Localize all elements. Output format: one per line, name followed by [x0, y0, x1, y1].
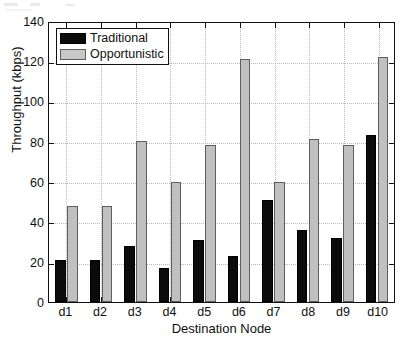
scan-artifact — [66, 4, 75, 6]
y-tick-40 — [49, 223, 54, 224]
bar-d1-traditional — [55, 260, 66, 302]
legend-swatch-traditional — [60, 33, 86, 44]
legend-label-traditional: Traditional — [90, 32, 148, 45]
y-tick-120-right — [389, 63, 394, 64]
y-tick-100-right — [389, 103, 394, 104]
bar-d5-opportunistic — [205, 145, 216, 302]
x-tick-d7-top — [275, 23, 276, 28]
bar-d1-opportunistic — [67, 206, 78, 302]
x-tick-d5-top — [205, 23, 206, 28]
legend-swatch-opportunistic — [60, 49, 86, 60]
y-tick-80-right — [389, 143, 394, 144]
legend-entry-traditional: Traditional — [60, 31, 164, 46]
y-tick-label-20: 20 — [0, 256, 44, 270]
x-tick-label-d10: d10 — [352, 305, 404, 319]
bar-d4-opportunistic — [171, 182, 182, 302]
bar-d10-traditional — [366, 135, 377, 302]
chart-figure: Throughput (kbps) Destination Node 0 20 … — [0, 0, 410, 339]
y-tick-120 — [49, 63, 54, 64]
bar-d3-traditional — [124, 246, 135, 302]
bar-d7-opportunistic — [274, 182, 285, 302]
y-tick-label-40: 40 — [0, 216, 44, 230]
scan-artifact — [30, 3, 40, 6]
legend-entry-opportunistic: Opportunistic — [60, 47, 164, 62]
bar-d9-opportunistic — [343, 145, 354, 302]
bar-d7-traditional — [262, 200, 273, 302]
y-tick-20 — [49, 264, 54, 265]
y-tick-label-100: 100 — [0, 95, 44, 109]
plot-area: Traditional Opportunistic — [48, 22, 395, 303]
bar-d4-traditional — [159, 268, 170, 302]
x-tick-d4-top — [170, 23, 171, 28]
bar-d6-traditional — [228, 256, 239, 302]
x-tick-d9-top — [344, 23, 345, 28]
bar-d2-opportunistic — [102, 206, 113, 302]
x-axis-title: Destination Node — [48, 321, 395, 336]
bar-d9-traditional — [331, 238, 342, 302]
gridline-y-100 — [49, 103, 394, 104]
bar-d8-traditional — [297, 230, 308, 302]
legend-label-opportunistic: Opportunistic — [90, 48, 164, 61]
y-tick-label-0: 0 — [0, 296, 44, 310]
bar-d3-opportunistic — [136, 141, 147, 302]
x-tick-d10-top — [379, 23, 380, 28]
bar-d6-opportunistic — [240, 59, 251, 302]
x-tick-d8-top — [309, 23, 310, 28]
bar-d2-traditional — [90, 260, 101, 302]
y-tick-20-right — [389, 264, 394, 265]
x-tick-d6-top — [240, 23, 241, 28]
y-tick-label-140: 140 — [0, 15, 44, 29]
chart-legend: Traditional Opportunistic — [56, 28, 169, 65]
y-tick-label-60: 60 — [0, 176, 44, 190]
bar-d8-opportunistic — [309, 139, 320, 302]
y-tick-60-right — [389, 183, 394, 184]
y-tick-100 — [49, 103, 54, 104]
y-tick-60 — [49, 183, 54, 184]
bar-d10-opportunistic — [378, 57, 389, 302]
bar-d5-traditional — [193, 240, 204, 302]
y-tick-label-120: 120 — [0, 55, 44, 69]
y-tick-label-80: 80 — [0, 136, 44, 150]
y-tick-80 — [49, 143, 54, 144]
y-tick-40-right — [389, 223, 394, 224]
